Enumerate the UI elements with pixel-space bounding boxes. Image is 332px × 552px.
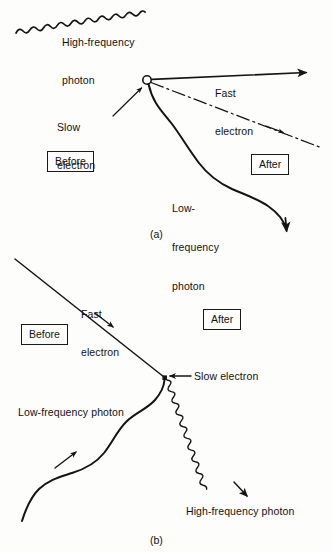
panel-b-fast-electron-label-line1: Fast xyxy=(81,308,119,321)
panel-a-low-frequency-photon-label-line2: frequency xyxy=(172,241,219,254)
panel-b-high-frequency-photon-wave xyxy=(167,380,247,496)
panel-a-low-frequency-photon-label-line1: Low- xyxy=(172,202,219,215)
physics-diagram-canvas xyxy=(0,0,332,552)
panel-a-fast-electron-label-line1: Fast xyxy=(215,87,253,100)
panel-a-slow-electron-label: Slow electron xyxy=(57,96,95,196)
panel-a-fast-electron-label-line2: electron xyxy=(215,125,253,138)
panel-a-before-box: Before xyxy=(47,151,94,172)
figure-page: High-frequency photon Fast electron Slow… xyxy=(0,0,332,552)
panel-b-caption: (b) xyxy=(150,534,163,546)
panel-a-low-frequency-photon-arrowhead xyxy=(285,218,286,231)
panel-a-low-frequency-photon-label: Low- frequency photon xyxy=(172,176,219,319)
panel-b-low-frequency-photon-direction-arrow xyxy=(55,452,76,468)
panel-b-fast-electron-label-line2: electron xyxy=(81,346,119,359)
panel-a-dashdot-direction-arrowhead xyxy=(266,126,283,132)
panel-a-low-frequency-photon-label-line3: photon xyxy=(172,280,219,293)
panel-b-high-frequency-photon-arrowhead xyxy=(234,482,247,496)
panel-b-fast-electron-label: Fast electron xyxy=(81,283,119,383)
panel-a-slow-electron-label-line1: Slow xyxy=(57,121,95,134)
panel-a-high-frequency-photon-label-line1: High-frequency xyxy=(62,36,135,49)
panel-b-after-box: After xyxy=(203,309,241,330)
panel-a-high-frequency-photon-label-line2: photon xyxy=(62,74,135,87)
panel-a-after-box: After xyxy=(251,154,289,175)
panel-a-interaction-vertex xyxy=(143,76,151,84)
panel-b-before-box: Before xyxy=(21,324,68,345)
panel-a-fast-electron-label: Fast electron xyxy=(215,62,253,162)
panel-a-caption: (a) xyxy=(150,228,163,240)
panel-b-low-frequency-photon-label: Low-frequency photon xyxy=(18,406,124,419)
panel-b-low-frequency-photon-curve xyxy=(22,380,165,521)
panel-b-slow-electron-label: Slow electron xyxy=(194,370,258,383)
panel-b-high-frequency-photon-label: High-frequency photon xyxy=(186,505,294,518)
